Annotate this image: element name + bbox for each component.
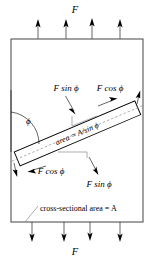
up-arrow-icon [63, 19, 68, 39]
up-arrow-icon [136, 91, 141, 105]
inclined-area-label-group: area = A/sin ϕ [54, 121, 100, 147]
bottom-force-arrows [29, 222, 122, 242]
leader-line-icon [58, 152, 87, 158]
down-arrow-icon [117, 222, 122, 242]
up-arrow-icon [117, 19, 122, 39]
cross-sectional-area-label: cross-sectional area = A [40, 204, 117, 213]
down-arrow-icon [13, 163, 18, 177]
physics-force-resolution-figure: F [0, 0, 155, 262]
force-label-top: F [71, 4, 79, 15]
normal-component-label-upper: F sin ϕ [52, 83, 79, 93]
force-label-bottom: F [71, 246, 79, 257]
normal-component-label-lower: F sin ϕ [85, 179, 112, 189]
vector-arrow-icon [98, 97, 118, 106]
top-force-arrows [35, 18, 122, 39]
angle-label-phi: ϕ [26, 116, 31, 126]
shear-component-label-upper: F cos ϕ [96, 83, 124, 93]
up-arrow-icon [89, 18, 94, 39]
down-arrow-icon [29, 222, 34, 242]
inclined-area-label: area = A/sin ϕ [54, 121, 100, 147]
down-arrow-icon [61, 222, 66, 242]
figure-canvas: F [0, 0, 155, 262]
up-arrow-icon [35, 19, 40, 39]
leader-line-icon [25, 206, 38, 222]
vector-arrow-icon [66, 96, 76, 114]
vector-arrow-icon [89, 157, 98, 175]
down-arrow-icon [87, 222, 92, 241]
angle-arc-icon [11, 90, 39, 152]
